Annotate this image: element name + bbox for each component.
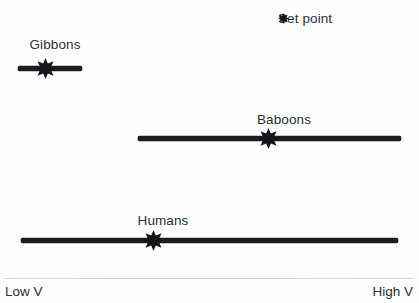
axis-label-low: Low V xyxy=(5,285,43,299)
series-label-humans: Humans xyxy=(138,214,189,228)
set-point-marker-gibbons xyxy=(35,58,56,79)
series-label-gibbons: Gibbons xyxy=(30,38,81,52)
series-label-baboons: Baboons xyxy=(257,113,311,127)
axis-label-high: High V xyxy=(372,285,413,299)
range-bar-humans xyxy=(21,238,398,243)
set-point-star-icon xyxy=(278,13,289,24)
figure-canvas: Set point Gibbons Baboons Humans xyxy=(0,0,419,303)
x-axis-line xyxy=(4,278,414,279)
legend-set-point: Set point xyxy=(278,12,332,26)
set-point-marker-baboons xyxy=(258,128,279,149)
set-point-marker-humans xyxy=(143,230,164,251)
